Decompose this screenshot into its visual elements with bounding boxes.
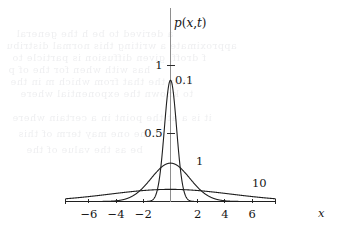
- curve-annotation-10: 10: [252, 178, 267, 190]
- x-tick-label: 2: [194, 209, 201, 221]
- function-label: p(x,t): [174, 17, 207, 29]
- curve-annotation-1: 1: [196, 156, 203, 168]
- x-tick-label: −4: [108, 209, 125, 221]
- x-tick-label: 6: [248, 209, 255, 221]
- x-tick-label: −2: [135, 209, 152, 221]
- x-tick-label: 4: [221, 209, 228, 221]
- y-tick-label: 1: [155, 60, 162, 72]
- x-tick-label: −6: [80, 209, 97, 221]
- y-tick-label: 0.5: [144, 128, 162, 140]
- curve-annotation-0-1: 0.1: [175, 75, 193, 87]
- diffusion-kernel-figure: a derived to be h the generalapproximate…: [0, 0, 341, 238]
- x-axis-label: x: [318, 208, 325, 220]
- plot-canvas: [0, 0, 341, 238]
- axes-group: [66, 8, 275, 204]
